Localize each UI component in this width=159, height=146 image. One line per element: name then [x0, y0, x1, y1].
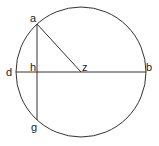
radius-az	[37, 24, 81, 72]
label-z: z	[82, 61, 88, 73]
label-h: h	[30, 61, 36, 73]
label-a: a	[30, 12, 37, 24]
label-d: d	[6, 66, 12, 78]
label-g: g	[31, 121, 37, 133]
geometry-diagram: a h d z b g	[0, 0, 159, 146]
label-b: b	[146, 61, 152, 73]
